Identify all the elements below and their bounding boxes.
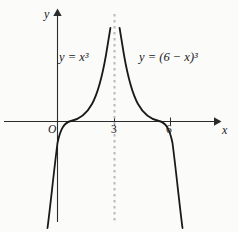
y-axis bbox=[53, 9, 61, 223]
x-axis-label: x bbox=[222, 124, 227, 136]
plot-canvas bbox=[0, 0, 238, 232]
y-axis-label: y bbox=[44, 8, 49, 20]
x-tick-label-6: 6 bbox=[166, 124, 172, 136]
curve-label-right-text: y = (6 − x)³ bbox=[139, 50, 198, 64]
x-tick-label-3: 3 bbox=[111, 124, 117, 136]
cubic-curves-figure: y = x³ y = (6 − x)³ x y O 3 6 bbox=[0, 0, 238, 232]
origin-label: O bbox=[48, 124, 56, 136]
curve-label-left: y = x³ bbox=[59, 51, 89, 64]
y-axis-arrowhead bbox=[53, 9, 61, 17]
x-axis-arrowhead bbox=[214, 117, 222, 125]
curve-label-right: y = (6 − x)³ bbox=[139, 51, 198, 64]
curve-label-left-text: y = x³ bbox=[59, 50, 89, 64]
